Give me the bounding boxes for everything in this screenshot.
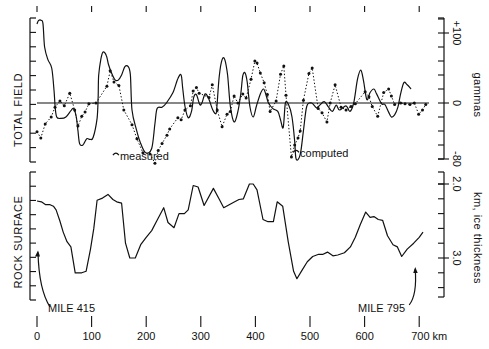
x-tick-label: 200 [137, 330, 155, 342]
ice-thickness-tick-label: 3.0 [451, 250, 463, 265]
measured-point [168, 127, 171, 130]
measured-point [413, 102, 416, 105]
mile-795-arrowhead [413, 267, 418, 273]
measured-point [424, 103, 427, 106]
measured-point [317, 107, 320, 110]
measured-point [195, 86, 198, 89]
measured-point [117, 84, 120, 87]
measured-point [266, 93, 269, 96]
x-tick-label: 700 km [411, 330, 447, 342]
x-tick-label: 100 [82, 330, 100, 342]
measured-point [109, 69, 112, 72]
measured-point [354, 102, 357, 105]
measured-point [321, 111, 324, 114]
measured-point [299, 130, 302, 133]
mile-415-arrowhead [35, 251, 40, 257]
ice-thickness-tick-label: 2.0 [451, 176, 463, 191]
measured-point [221, 125, 224, 128]
measured-point [275, 99, 278, 102]
measured-point [135, 137, 138, 140]
measured-point [198, 92, 201, 95]
measured-point [367, 95, 370, 98]
measured-point [54, 106, 57, 109]
x-tick-label: 300 [192, 330, 210, 342]
measured-point [161, 142, 164, 145]
x-tick-label: 0 [34, 330, 40, 342]
measured-point [84, 111, 87, 114]
computed-leader [293, 150, 299, 152]
measured-point [345, 109, 348, 112]
measured-point [112, 81, 115, 84]
measured-point [176, 116, 179, 119]
chart-canvas: TOTAL FIELD ROCK SURFACE gammas km, ice … [0, 0, 489, 349]
mile-795-arrow [409, 269, 415, 305]
rock-surface-line [37, 184, 423, 279]
measured-point [364, 90, 367, 93]
measured-point [165, 134, 168, 137]
measured-point [340, 106, 343, 109]
measured-point [122, 109, 125, 112]
measured-point [290, 155, 293, 158]
y-label-gammas: gammas [472, 72, 484, 117]
measured-point [226, 113, 229, 116]
y-label-ice-thickness: km, ice thickness [472, 192, 484, 284]
y-label-rock-surface: ROCK SURFACE [12, 196, 24, 289]
measured-point [233, 95, 236, 98]
measured-point [36, 130, 39, 133]
computed-annotation: computed [300, 147, 348, 159]
measured-point [236, 102, 239, 105]
measured-point [302, 99, 305, 102]
measured-point [259, 71, 262, 74]
measured-point [73, 109, 76, 112]
computed-line [37, 20, 411, 160]
measured-point [421, 109, 424, 112]
measured-point [76, 125, 79, 128]
measured-point [241, 92, 244, 95]
measured-point [334, 83, 337, 86]
measured-point [87, 102, 90, 105]
gammas-tick-label: +100 [451, 21, 463, 46]
measured-point [393, 103, 396, 106]
measured-point [417, 113, 420, 116]
gammas-tick-label: -80 [451, 151, 463, 167]
measured-point [39, 137, 42, 140]
measured-point [50, 116, 53, 119]
measured-point [207, 96, 210, 99]
measured-point [80, 115, 83, 118]
measured-point [296, 137, 299, 140]
mile-415-arrow [38, 253, 50, 307]
y-label-total-field: TOTAL FIELD [12, 73, 24, 147]
measured-point [282, 64, 285, 67]
measured-point [263, 81, 266, 84]
measured-point [376, 115, 379, 118]
measured-point [390, 95, 393, 98]
measured-point [94, 102, 97, 105]
measured-point [279, 73, 282, 76]
measured-point [404, 102, 407, 105]
measured-point [256, 62, 259, 65]
measured-point [216, 109, 219, 112]
measured-point [293, 144, 296, 147]
gammas-tick-label: 0 [451, 100, 463, 106]
measured-point [211, 83, 214, 86]
measured-point [325, 120, 328, 123]
measured-point [382, 91, 385, 94]
x-tick-label: 600 [355, 330, 373, 342]
mile-795-label: MILE 795 [358, 302, 405, 314]
measured-point [245, 97, 248, 100]
measured-point [68, 92, 71, 95]
measured-point [183, 109, 186, 112]
measured-point [131, 123, 134, 126]
measured-point [307, 72, 310, 75]
x-tick-label: 500 [301, 330, 319, 342]
measured-point [63, 104, 66, 107]
measured-point [180, 118, 183, 121]
x-tick-label: 400 [246, 330, 264, 342]
measured-point [269, 110, 272, 113]
measured-point [229, 110, 232, 113]
measured-point [311, 67, 314, 70]
measured-point [192, 90, 195, 93]
measured-point [329, 102, 332, 105]
measured-point [408, 103, 411, 106]
measured-point [349, 105, 352, 108]
